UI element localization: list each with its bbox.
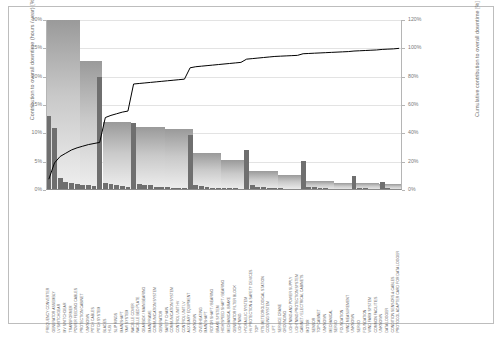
y-tick-right: 40% <box>408 130 442 135</box>
x-axis-label: BRAKE SYSTEM <box>216 305 220 332</box>
tick-mark <box>402 162 405 163</box>
x-axis-label: RTS METEOROLOGICAL STATION <box>261 276 265 332</box>
y-tick-left: 5% <box>6 159 42 164</box>
x-axis-label: MAIN FRAME <box>148 310 152 332</box>
x-axis-label: AUXILIARY EQUIPMENT <box>188 292 192 332</box>
x-axis-label: BLADES <box>103 318 107 332</box>
y-tick-left: 15% <box>6 102 42 107</box>
x-axis-label: HV PROTECTION & SAFETY DEVICES <box>250 269 254 332</box>
x-axis-label: TRANSFORMER <box>69 305 73 332</box>
x-axis-label: UNKNOWN <box>380 314 384 332</box>
x-axis-label: FOUNDATION <box>340 309 344 332</box>
x-axis-label: PROTECTION CABINET <box>80 293 84 332</box>
x-axis-label: FREQUENCY CONVERTER <box>47 287 51 332</box>
x-axis-label: SAFETY CHAIN <box>165 307 169 332</box>
x-axis-label: LIFT <box>273 325 277 332</box>
y-tick-left: 10% <box>6 130 42 135</box>
x-axis-label: PROTOCOL ADAPTER CARD FOR DATA LOGGER <box>397 250 401 332</box>
x-axis-label: UNKNOWN <box>352 314 356 332</box>
y-tick-left: 20% <box>6 74 42 79</box>
x-axis-label: UNKNOWN <box>86 314 90 332</box>
x-axis-label: GEARBOX / MAIN BEARING <box>143 286 147 332</box>
y-tick-right: 120% <box>408 17 442 22</box>
x-axis-label: GROUNDING <box>284 310 288 332</box>
x-axis-label: COMMUNICATION SYSTEM <box>171 287 175 332</box>
x-axis-label: UNKNOWN <box>323 314 327 332</box>
x-axis-label: SERVO <box>357 320 361 332</box>
x-axis-label: GENERATOR FILTER BLOCK <box>233 285 237 332</box>
x-axis-label: COMMUNICATION SYSTEM <box>154 287 158 332</box>
x-axis-label: YAW SYSTEM <box>126 309 130 332</box>
x-axis-label: CONTROL UNIT HV <box>177 300 181 332</box>
y-tick-right: 0% <box>408 187 442 192</box>
y-tick-left: 30% <box>6 17 42 22</box>
x-axis-label: POWER FEEDING CABLES <box>75 287 79 332</box>
x-axis-label: HIGH SPEED SHAFT / BEARING <box>222 279 226 332</box>
x-axis-label: MECHANICAL <box>329 309 333 332</box>
x-axis-label: SERVICE CRANE <box>278 303 282 332</box>
tick-mark <box>402 48 405 49</box>
x-axis-label: LIGHTNING PROTECTION SYSTEM <box>295 274 299 332</box>
x-axis-label: LV SWITCHGEAR <box>58 303 62 332</box>
x-axis-label: MOTOR <box>307 319 311 332</box>
x-axis-label: SLIP RINGS <box>114 312 118 332</box>
x-axis-label: PITCH SYSTEM <box>97 306 101 332</box>
x-axis-label: LIGHTNING AND POWER SUPPLY <box>290 276 294 332</box>
x-axis-label: CABINET / ELECTRICAL CABINETS <box>301 274 305 332</box>
x-axis-label: HUB <box>109 325 113 332</box>
tick-mark <box>43 190 46 191</box>
x-axis-label: NACELLE BED PLATE <box>137 296 141 332</box>
pareto-chart-page: Contribution to overall downtime (hours … <box>0 0 504 337</box>
y-tick-left: 0% <box>6 187 42 192</box>
x-axis-label: COOLING SYSTEM <box>267 300 271 332</box>
x-axis-label: MV SWITCHGEAR <box>64 302 68 332</box>
x-axis-label: MAIN SHAFT <box>120 311 124 332</box>
x-axis-label: UNKNOWN <box>193 314 197 332</box>
y-tick-right: 20% <box>408 159 442 164</box>
x-axis-label: CONTROL UNIT LV <box>182 301 186 332</box>
y-tick-right: 80% <box>408 74 442 79</box>
tick-mark <box>402 77 405 78</box>
x-axis-label: FOUNDATION <box>363 309 367 332</box>
x-axis-label: SERVO <box>335 320 339 332</box>
y-tick-left: 25% <box>6 45 42 50</box>
x-axis-label: OVERHEATING <box>199 307 203 332</box>
y-tick-right: 100% <box>408 45 442 50</box>
x-axis-label: WIND FARM SYSTEM <box>369 297 373 332</box>
x-axis-label: NACELLE COVER <box>131 303 135 332</box>
x-axis-label: LIGHTNING <box>239 313 243 332</box>
tick-mark <box>402 133 405 134</box>
x-axis-labels: FREQUENCY CONVERTERGENERATOR ASSEMBLYLV … <box>46 192 402 332</box>
x-axis-label: TOP CABINET <box>318 309 322 332</box>
cumulative-line <box>46 20 402 190</box>
x-axis-label: CONDITION SENSORS & CABLES <box>391 276 395 332</box>
x-axis-label: COMMON FACILITIES <box>374 296 378 332</box>
x-axis-label: MECHANICAL BRAKE <box>227 296 231 332</box>
x-axis-label: HYDRAULIC SYSTEM <box>244 296 248 332</box>
x-axis-label: ROTOR SHAFT / BEARING <box>210 288 214 332</box>
x-axis-label: WIND MEASUREMENT <box>346 294 350 332</box>
tick-mark <box>402 190 405 191</box>
y-axis-right-title: Cumulative contribution to overall downt… <box>474 0 480 154</box>
x-axis-label: SENSOR <box>312 317 316 332</box>
tick-mark <box>402 20 405 21</box>
x-axis-label: GENERATOR ASSEMBLY <box>52 291 56 332</box>
tick-mark <box>402 105 405 106</box>
x-axis-label: PITCH CABLES <box>92 307 96 332</box>
x-axis-label: DATA LOGGER <box>386 307 390 332</box>
x-axis-label: GENERATOR <box>160 310 164 332</box>
y-tick-right: 60% <box>408 102 442 107</box>
x-axis-label: MAIN SHAFT <box>205 311 209 332</box>
x-axis-label: TOP <box>256 325 260 332</box>
